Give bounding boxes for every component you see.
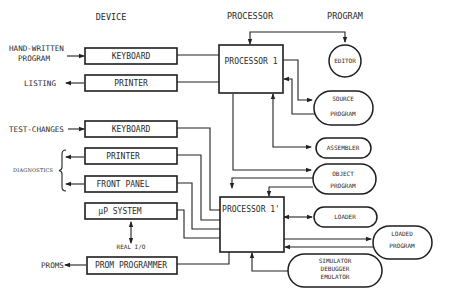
label-hand-written: HAND-WRITTEN [9, 44, 64, 53]
header-processor: PROCESSOR [227, 11, 274, 21]
program-label: DEBUGGER [321, 265, 350, 272]
arrow-processor1-to-source [283, 60, 312, 100]
device-prom-programmer: PROM PROGRAMMER [87, 257, 177, 274]
processor-label: PROCESSOR 1 [225, 57, 278, 66]
line-processor1-editor [250, 32, 345, 44]
program-label: LOADER [334, 213, 356, 220]
device-keyboard-2: KEYBOARD [85, 121, 177, 137]
program-editor: EDITOR [329, 45, 361, 77]
program-object: OBJECT PROGRAM [313, 164, 376, 194]
label-hand-written-program: PROGRAM [18, 54, 50, 63]
device-up-system: μP SYSTEM [85, 203, 177, 219]
processor-label: PROCESSOR 1' [222, 205, 280, 214]
program-label: PROGRAM [330, 110, 356, 117]
block-diagram: DEVICE PROCESSOR PROGRAM [0, 0, 457, 302]
line-processor1p-promprogrammer [177, 251, 229, 264]
program-source: SOURCE PROGRAM [314, 91, 373, 125]
label-proms: PROMS [41, 261, 64, 270]
label-diagnostics: DIAGNOSTICS [13, 167, 54, 173]
program-label: SIMULATOR [319, 257, 352, 264]
program-loader: LOADER [314, 207, 377, 227]
device-label: μP SYSTEM [98, 207, 142, 216]
program-label: EDITOR [334, 57, 356, 64]
device-label: PRINTER [106, 152, 140, 161]
program-loaded: LOADED PROGRAM [373, 226, 432, 259]
processor-1-prime: PROCESSOR 1' [220, 197, 284, 252]
line-keyboard2-processor1p [177, 128, 220, 210]
device-front-panel: FRONT PANEL [85, 176, 177, 192]
label-test-changes: TEST-CHANGES [9, 125, 64, 134]
program-label: ASSEMBLER [327, 144, 360, 151]
device-label: KEYBOARD [112, 125, 151, 134]
device-label: PRINTER [114, 79, 148, 88]
device-label: PROM PROGRAMMER [95, 261, 167, 270]
program-label: PROGRAM [330, 182, 356, 189]
arrow-processor1-to-object [233, 94, 311, 170]
device-label: FRONT PANEL [97, 180, 150, 189]
device-keyboard-1: KEYBOARD [85, 48, 177, 64]
program-assembler: ASSEMBLER [316, 138, 371, 158]
program-label: EMULATOR [321, 273, 350, 280]
header-program: PROGRAM [327, 11, 363, 21]
program-label: PROGRAM [389, 242, 415, 249]
device-printer-2: PRINTER [85, 148, 177, 164]
arrow-simulator-to-processor1p [252, 253, 288, 271]
arrow-source-to-processor1 [284, 79, 316, 114]
device-printer-1: PRINTER [85, 75, 177, 91]
arrow-object-to-processor1p-b [269, 187, 313, 196]
program-simulator-debugger-emulator: SIMULATOR DEBUGGER EMULATOR [288, 254, 382, 287]
program-label: OBJECT [332, 170, 354, 177]
program-label: SOURCE [332, 95, 354, 102]
label-listing: LISTING [24, 79, 56, 88]
header-device: DEVICE [96, 12, 127, 22]
program-label: LOADED [391, 230, 413, 237]
device-label: KEYBOARD [112, 52, 151, 61]
diagnostics-brace [59, 150, 66, 191]
processor-1: PROCESSOR 1 [219, 45, 283, 93]
line-upsystem-processor1p [177, 210, 220, 238]
label-real-io: REAL I/O [117, 243, 146, 250]
